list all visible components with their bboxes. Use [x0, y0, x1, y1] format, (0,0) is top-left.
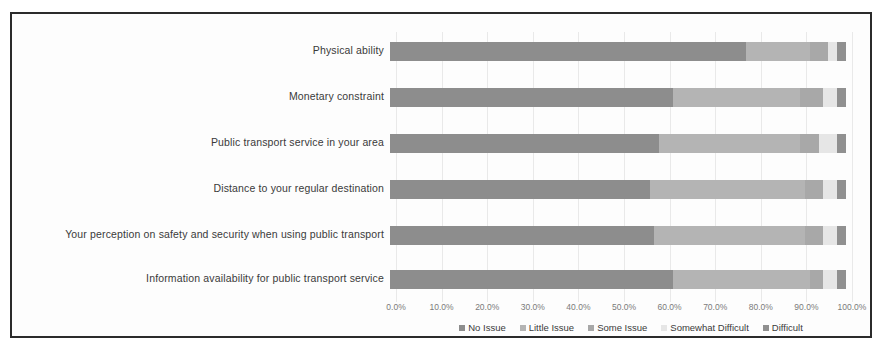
bar-segment [828, 42, 837, 61]
bar-segment [823, 88, 837, 107]
gridline [670, 32, 671, 302]
bar-row: Your perception on safety and security w… [12, 220, 874, 250]
bar-segment [837, 42, 846, 61]
bar-row: Physical ability [12, 36, 874, 66]
category-label: Physical ability [12, 45, 390, 57]
legend-item[interactable]: Somewhat Difficult [661, 322, 749, 333]
x-tick-label: 40.0% [566, 302, 590, 312]
bar-segment [800, 88, 823, 107]
bar-segment [837, 134, 846, 153]
bar-row: Monetary constraint [12, 82, 874, 112]
x-tick-label: 20.0% [475, 302, 499, 312]
gridline [852, 32, 853, 302]
legend-label: Some Issue [597, 322, 647, 333]
stacked-bar-chart: Physical abilityMonetary constraintPubli… [12, 14, 874, 340]
bar-segment [650, 180, 805, 199]
legend-item[interactable]: No Issue [459, 322, 506, 333]
x-axis-tick-labels: 0.0%10.0%20.0%30.0%40.0%50.0%60.0%70.0%8… [396, 302, 852, 318]
x-tick-label: 100.0% [838, 302, 867, 312]
bar-segment [800, 134, 818, 153]
bar-segment [810, 42, 828, 61]
legend-swatch-icon [459, 325, 465, 331]
bar-row: Information availability for public tran… [12, 264, 874, 294]
x-tick-label: 60.0% [658, 302, 682, 312]
chart-legend: No IssueLittle IssueSome IssueSomewhat D… [396, 322, 866, 333]
stacked-bar [390, 270, 846, 289]
legend-item[interactable]: Little Issue [520, 322, 574, 333]
bar-segment [673, 270, 810, 289]
stacked-bar [390, 42, 846, 61]
legend-swatch-icon [763, 325, 769, 331]
bar-segment [837, 88, 846, 107]
legend-swatch-icon [520, 325, 526, 331]
legend-swatch-icon [661, 325, 667, 331]
bar-segment [390, 180, 650, 199]
legend-label: No Issue [468, 322, 506, 333]
bar-segment [823, 180, 837, 199]
category-label: Monetary constraint [12, 91, 390, 103]
gridline [396, 32, 397, 302]
stacked-bar [390, 226, 846, 245]
bar-segment [819, 134, 837, 153]
gridline [442, 32, 443, 302]
gridline [761, 32, 762, 302]
gridline [578, 32, 579, 302]
bar-segment [746, 42, 810, 61]
stacked-bar [390, 134, 846, 153]
bar-segment [837, 180, 846, 199]
bar-segment [810, 270, 824, 289]
gridlines [396, 32, 852, 302]
bar-segment [390, 42, 746, 61]
gridline [715, 32, 716, 302]
legend-swatch-icon [588, 325, 594, 331]
gridline [533, 32, 534, 302]
bar-segment [837, 270, 846, 289]
stacked-bar [390, 88, 846, 107]
stacked-bar [390, 180, 846, 199]
page-edge [0, 344, 886, 350]
bar-segment [390, 270, 673, 289]
bar-segment [390, 226, 654, 245]
bar-segment [823, 226, 837, 245]
category-label: Your perception on safety and security w… [12, 229, 390, 241]
bar-segment [823, 270, 837, 289]
legend-label: Difficult [772, 322, 803, 333]
chart-frame: Physical abilityMonetary constraintPubli… [10, 12, 872, 338]
x-tick-label: 10.0% [430, 302, 454, 312]
x-tick-label: 90.0% [794, 302, 818, 312]
gridline [487, 32, 488, 302]
legend-label: Somewhat Difficult [670, 322, 749, 333]
category-label: Public transport service in your area [12, 137, 390, 149]
x-tick-label: 80.0% [749, 302, 773, 312]
legend-item[interactable]: Some Issue [588, 322, 647, 333]
bar-segment [673, 88, 801, 107]
legend-label: Little Issue [529, 322, 574, 333]
bar-segment [805, 180, 823, 199]
bar-row: Public transport service in your area [12, 128, 874, 158]
bar-row: Distance to your regular destination [12, 174, 874, 204]
bar-segment [659, 134, 800, 153]
bar-segment [654, 226, 804, 245]
gridline [806, 32, 807, 302]
gridline [624, 32, 625, 302]
legend-item[interactable]: Difficult [763, 322, 803, 333]
bar-segment [805, 226, 823, 245]
x-tick-label: 0.0% [386, 302, 405, 312]
bar-segment [390, 134, 659, 153]
category-label: Distance to your regular destination [12, 183, 390, 195]
x-tick-label: 30.0% [521, 302, 545, 312]
x-tick-label: 50.0% [612, 302, 636, 312]
x-tick-label: 70.0% [703, 302, 727, 312]
category-label: Information availability for public tran… [12, 273, 390, 285]
bar-segment [837, 226, 846, 245]
bar-segment [390, 88, 673, 107]
